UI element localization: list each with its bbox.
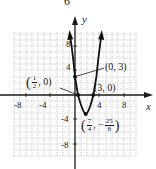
label-root-three: (3, 0): [94, 83, 116, 93]
x-axis-arrow-icon: [144, 92, 153, 98]
point-root-three: [91, 93, 95, 97]
leader-y-intercept: [75, 68, 104, 77]
fraction-twentyfive-eighths: 258: [105, 118, 114, 133]
point-vertex: [84, 112, 88, 116]
fraction-one-half: 12: [32, 75, 38, 90]
tick-y-4: 4: [66, 63, 71, 72]
label-root-half: (12, 0): [26, 75, 52, 90]
parabola-graph: [0, 0, 156, 169]
tick-y-8: 8: [66, 40, 71, 49]
tick-x-4: 4: [97, 101, 102, 110]
tick-y-neg8: -8: [61, 141, 69, 150]
tick-y-neg4: -4: [61, 115, 69, 124]
fraction-seven-fourths: 74: [87, 118, 93, 133]
tick-x-neg8: -8: [14, 101, 22, 110]
tick-x-8: 8: [122, 101, 127, 110]
label-y-intercept: (0, 3): [105, 62, 127, 72]
y-axis-arrow-icon: [72, 16, 78, 25]
label-vertex: (74, −258): [81, 118, 119, 133]
x-axis-label: x: [146, 101, 151, 112]
y-axis-label: y: [82, 14, 87, 25]
tick-x-neg4: -4: [39, 101, 47, 110]
